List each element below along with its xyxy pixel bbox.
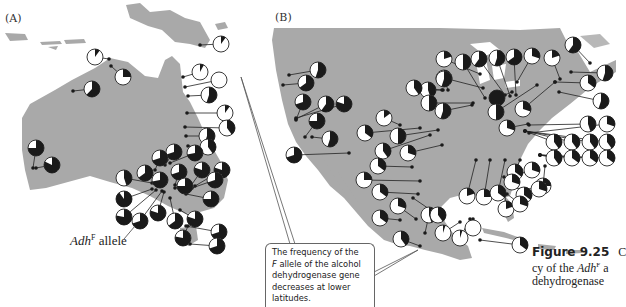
locality-dot (446, 88, 450, 92)
gene-name: Adh (70, 233, 91, 248)
caption-line-2: cy of the AdhF a (532, 259, 622, 275)
panel-b-label: (B) (275, 11, 292, 24)
callout-line: F allele of the alcohol (272, 259, 368, 271)
pie-chart (512, 196, 528, 212)
pie-chart (207, 172, 223, 188)
pie-chart (580, 116, 596, 132)
pie-chart (471, 51, 487, 67)
pie-chart (531, 181, 547, 197)
locality-dot (150, 187, 154, 191)
pie-chart (582, 134, 598, 150)
locality-dot (347, 151, 351, 155)
pie-chart (488, 104, 504, 120)
pie-chart (400, 145, 416, 161)
locality-dot (184, 134, 188, 138)
locality-dot (153, 168, 157, 172)
locality-dot (543, 164, 547, 168)
pie-chart (465, 220, 481, 236)
pie-chart (370, 158, 386, 174)
locality-dot (553, 80, 557, 84)
pie-chart (599, 150, 615, 166)
pie-chart (356, 172, 372, 188)
locality-dot (535, 83, 539, 87)
pie-chart (219, 120, 235, 136)
locality-dot (515, 80, 519, 84)
pie-chart (194, 162, 210, 178)
callout-line: The frequency of the (272, 247, 368, 259)
pie-chart (515, 101, 531, 117)
pie-chart (599, 116, 615, 132)
pie-chart (564, 150, 580, 166)
pie-chart (524, 162, 540, 178)
locality-dot (178, 208, 182, 212)
locality-dot (527, 123, 531, 127)
pie-chart (115, 69, 131, 85)
pie-chart (455, 54, 471, 70)
locality-dot (398, 218, 402, 222)
locality-dot (154, 188, 158, 192)
pie-chart (406, 80, 422, 96)
locality-dot (423, 231, 427, 235)
locality-dot (183, 85, 187, 89)
callout-line: decreases at lower (272, 282, 368, 294)
pie-chart (298, 75, 314, 91)
pie-chart (430, 207, 446, 223)
australia-map (5, 3, 228, 246)
pie-chart (390, 128, 406, 144)
pie-chart (421, 95, 437, 111)
pie-chart (489, 50, 505, 66)
locality-dot (478, 72, 482, 76)
caption-suffix: a (600, 261, 608, 275)
locality-dot (183, 125, 187, 129)
locality-dot (558, 77, 562, 81)
pie-chart (512, 237, 528, 253)
locality-dot (398, 123, 402, 127)
callout-line: dehydrogenase gene (272, 270, 368, 282)
caption-line-1: Figure 9.25 C (532, 246, 622, 259)
locality-dot (428, 133, 432, 137)
pie-chart (435, 103, 451, 119)
locality-dot (588, 61, 592, 65)
locality-dot (71, 89, 75, 93)
locality-dot (569, 70, 573, 74)
pie-chart (28, 140, 44, 156)
pie-chart (506, 49, 522, 65)
locality-dot (474, 158, 478, 162)
pie-chart (476, 189, 492, 205)
locality-dot (294, 116, 298, 120)
locality-dot (198, 43, 202, 47)
pie-chart (504, 174, 520, 190)
pie-chart (390, 198, 406, 214)
pie-chart (546, 134, 562, 150)
pie-chart (152, 150, 168, 166)
locality-dot (508, 94, 512, 98)
locality-dot (168, 196, 172, 200)
locality-dot (418, 179, 422, 183)
locality-dot (34, 166, 38, 170)
figure-number: Figure 9.25 (532, 245, 609, 259)
locality-dot (440, 88, 444, 92)
pie-chart (175, 230, 191, 246)
pie-chart (524, 48, 540, 64)
locality-dot (514, 93, 518, 97)
pie-chart (499, 120, 515, 136)
locality-dot (440, 143, 444, 147)
locality-dot (557, 90, 561, 94)
allele-suffix: allele (95, 233, 126, 248)
pie-chart (211, 72, 227, 88)
pie-chart (167, 213, 183, 229)
pie-chart (544, 50, 560, 66)
pie-chart (393, 231, 409, 247)
locality-dot (185, 111, 189, 115)
pie-chart (84, 81, 100, 97)
locality-dot (503, 158, 507, 162)
locality-dot (414, 217, 418, 221)
pie-chart (459, 188, 475, 204)
pie-chart (217, 105, 233, 121)
pie-chart (87, 49, 103, 65)
locality-dot (416, 192, 420, 196)
pie-chart (203, 191, 219, 207)
pie-chart (435, 225, 451, 241)
pie-chart (201, 87, 217, 103)
pie-chart (546, 150, 562, 166)
